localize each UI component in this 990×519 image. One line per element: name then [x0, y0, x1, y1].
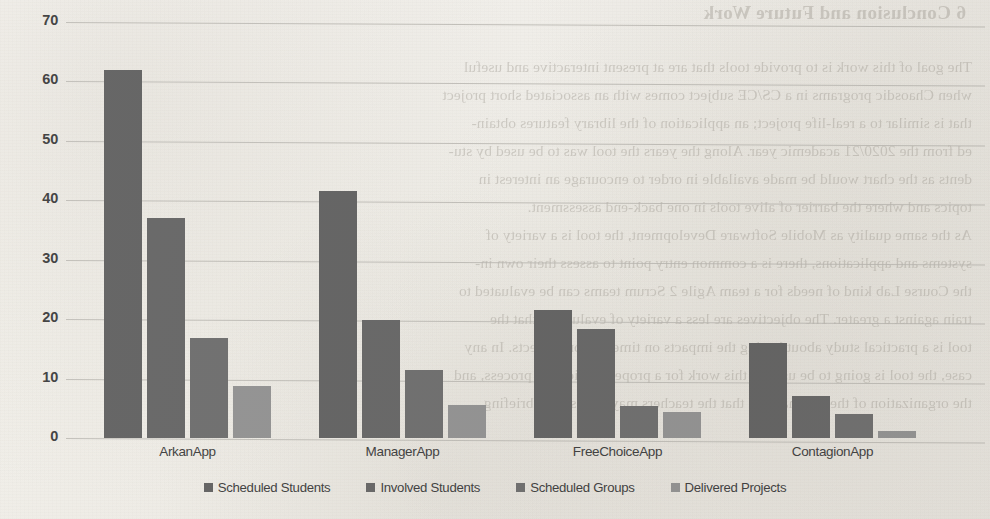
- bar[interactable]: [190, 338, 228, 438]
- legend-label: Scheduled Students: [218, 480, 331, 495]
- bar[interactable]: [405, 370, 443, 438]
- legend-item[interactable]: Scheduled Groups: [516, 480, 634, 495]
- y-axis-tick-label: 30: [14, 250, 58, 266]
- y-axis-tick-label: 0: [14, 428, 58, 444]
- x-axis-label: ArkanApp: [108, 444, 268, 459]
- bar[interactable]: [147, 218, 185, 438]
- bar-group: [749, 22, 921, 438]
- bar[interactable]: [577, 329, 615, 438]
- legend-swatch-icon: [671, 483, 680, 492]
- bar[interactable]: [835, 414, 873, 438]
- x-axis-label: ContagionApp: [753, 444, 913, 459]
- bar-chart: 010203040506070 ArkanAppManagerAppFreeCh…: [0, 0, 990, 519]
- bar[interactable]: [319, 191, 357, 438]
- y-axis-tick-label: 50: [14, 131, 58, 147]
- scanned-page: 6 Conclusion and Future Work The goal of…: [0, 0, 990, 519]
- x-axis-label: ManagerApp: [323, 444, 483, 459]
- legend-label: Delivered Projects: [685, 480, 787, 495]
- bar[interactable]: [878, 431, 916, 438]
- gridline: [66, 438, 985, 443]
- y-axis-tick-label: 60: [14, 71, 58, 87]
- bar[interactable]: [620, 406, 658, 438]
- x-axis-label: FreeChoiceApp: [538, 444, 698, 459]
- plot-area: [66, 22, 985, 438]
- bar-group: [104, 22, 276, 438]
- y-axis-tick-label: 10: [14, 369, 58, 385]
- y-axis-tick-label: 20: [14, 309, 58, 325]
- bar[interactable]: [663, 412, 701, 438]
- legend-label: Involved Students: [380, 480, 480, 495]
- legend-item[interactable]: Scheduled Students: [204, 480, 331, 495]
- bar[interactable]: [362, 320, 400, 438]
- chart-legend: Scheduled StudentsInvolved StudentsSched…: [0, 480, 990, 495]
- legend-item[interactable]: Involved Students: [366, 480, 480, 495]
- bar-group: [319, 22, 491, 438]
- bar[interactable]: [104, 70, 142, 438]
- legend-swatch-icon: [516, 483, 525, 492]
- legend-swatch-icon: [204, 483, 213, 492]
- bar[interactable]: [233, 386, 271, 438]
- y-axis: 010203040506070: [8, 22, 58, 438]
- bar[interactable]: [448, 405, 486, 438]
- y-axis-tick-label: 40: [14, 190, 58, 206]
- y-axis-tick-label: 70: [14, 12, 58, 28]
- bar[interactable]: [792, 396, 830, 438]
- bar-group: [534, 22, 706, 438]
- legend-item[interactable]: Delivered Projects: [671, 480, 787, 495]
- legend-label: Scheduled Groups: [530, 480, 634, 495]
- bar[interactable]: [534, 310, 572, 438]
- legend-swatch-icon: [366, 483, 375, 492]
- bar[interactable]: [749, 343, 787, 438]
